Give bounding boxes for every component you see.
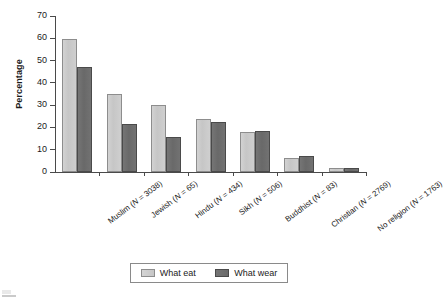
y-tick-label: 30: [26, 99, 47, 110]
x-axis-category-label: Buddhist (N = 83): [284, 179, 340, 225]
bar: [299, 156, 314, 172]
bar: [240, 132, 255, 172]
x-axis-category-label: Hindu (N = 434): [193, 179, 244, 221]
x-tick-mark: [144, 172, 145, 176]
bar: [151, 105, 166, 172]
x-tick-mark: [99, 172, 100, 176]
legend-label: What eat: [160, 268, 196, 278]
scan-artifact-secondary: [2, 290, 11, 294]
y-axis-title: Percentage: [14, 44, 24, 124]
y-tick-mark: [50, 60, 55, 61]
y-tick-mark: [50, 105, 55, 106]
legend-item: What wear: [215, 268, 277, 278]
y-tick-label: 60: [26, 32, 47, 43]
y-tick-label: 10: [26, 144, 47, 155]
legend-swatch-icon: [215, 269, 229, 277]
bar: [329, 168, 344, 172]
x-tick-mark: [322, 172, 323, 176]
x-tick-mark: [277, 172, 278, 176]
bar: [107, 94, 122, 172]
y-tick-mark: [50, 149, 55, 150]
y-tick-mark: [50, 16, 55, 17]
y-axis-line: [55, 16, 56, 173]
y-tick-mark: [50, 82, 55, 83]
chart-legend: What eatWhat wear: [130, 263, 288, 283]
bar: [166, 137, 181, 172]
y-tick-label: 50: [26, 55, 47, 66]
y-tick-label: 20: [26, 121, 47, 132]
y-tick-label: 0: [26, 166, 47, 177]
bar: [255, 131, 270, 172]
y-tick-mark: [50, 127, 55, 128]
legend-label: What wear: [234, 268, 277, 278]
bar: [284, 158, 299, 172]
y-tick-mark: [50, 38, 55, 39]
bar: [196, 119, 211, 172]
legend-item: What eat: [141, 268, 196, 278]
bar: [122, 124, 137, 172]
x-axis-line: [55, 172, 366, 173]
x-tick-mark: [188, 172, 189, 176]
bar: [211, 122, 226, 172]
y-tick-mark: [50, 172, 55, 173]
y-tick-label: 70: [26, 10, 47, 21]
x-tick-mark: [233, 172, 234, 176]
bar: [344, 168, 359, 172]
legend-swatch-icon: [141, 269, 155, 277]
x-tick-mark: [366, 172, 367, 176]
scan-artifact: [2, 295, 16, 297]
bar: [62, 39, 77, 172]
bar: [77, 67, 92, 172]
y-tick-label: 40: [26, 77, 47, 88]
